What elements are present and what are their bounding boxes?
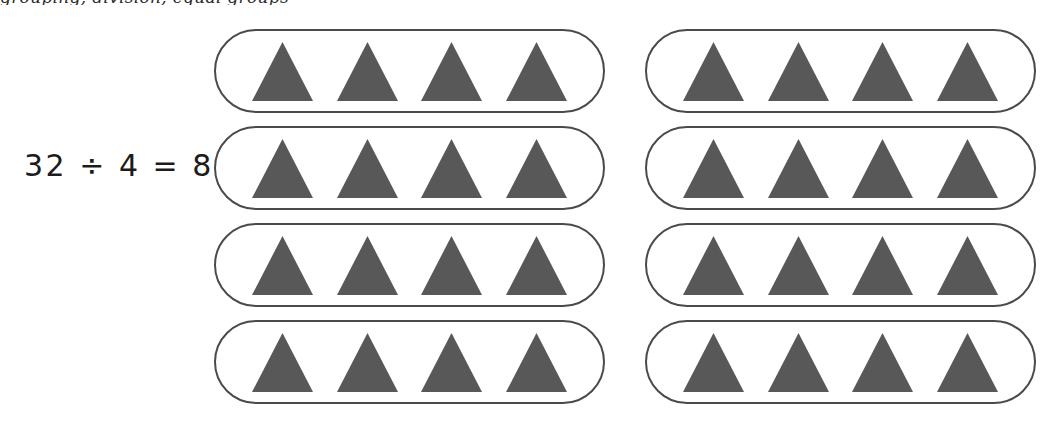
triangle-icon — [767, 41, 830, 102]
triangle-icon — [505, 332, 568, 393]
triangle-icon — [251, 235, 314, 296]
group-oval[interactable] — [214, 29, 605, 113]
triangle-icon — [851, 41, 914, 102]
group-oval[interactable] — [645, 126, 1036, 210]
triangle-icon — [251, 332, 314, 393]
triangle-icon — [336, 332, 399, 393]
group-oval[interactable] — [214, 223, 605, 307]
equal-groups-grid — [214, 29, 1036, 401]
triangle-icon — [505, 138, 568, 199]
triangle-icon — [420, 235, 483, 296]
triangle-icon — [682, 41, 745, 102]
triangle-icon — [336, 235, 399, 296]
group-oval[interactable] — [214, 320, 605, 404]
triangle-icon — [505, 41, 568, 102]
group-oval[interactable] — [214, 126, 605, 210]
triangle-icon — [682, 332, 745, 393]
triangle-icon — [251, 41, 314, 102]
triangle-icon — [767, 332, 830, 393]
cut-off-caption-text: grouping, division, equal groups — [0, 0, 1057, 5]
group-column-1 — [645, 29, 1036, 401]
triangle-icon — [767, 138, 830, 199]
triangle-icon — [936, 41, 999, 102]
triangle-icon — [936, 332, 999, 393]
triangle-icon — [936, 138, 999, 199]
triangle-icon — [336, 138, 399, 199]
triangle-icon — [336, 41, 399, 102]
triangle-icon — [682, 235, 745, 296]
group-column-0 — [214, 29, 605, 401]
group-oval[interactable] — [645, 320, 1036, 404]
triangle-icon — [682, 138, 745, 199]
division-equation: 32 ÷ 4 = 8 — [24, 145, 199, 185]
triangle-icon — [420, 41, 483, 102]
triangle-icon — [851, 138, 914, 199]
triangle-icon — [936, 235, 999, 296]
group-oval[interactable] — [645, 29, 1036, 113]
triangle-icon — [767, 235, 830, 296]
triangle-icon — [420, 332, 483, 393]
triangle-icon — [851, 235, 914, 296]
triangle-icon — [251, 138, 314, 199]
triangle-icon — [505, 235, 568, 296]
triangle-icon — [420, 138, 483, 199]
worksheet-canvas: grouping, division, equal groups 32 ÷ 4 … — [0, 0, 1057, 429]
group-oval[interactable] — [645, 223, 1036, 307]
triangle-icon — [851, 332, 914, 393]
